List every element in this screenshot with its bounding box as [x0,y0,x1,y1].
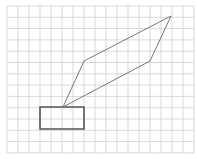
grid-diagram [0,0,197,159]
shapes [40,16,171,129]
grid-lines [7,6,194,153]
